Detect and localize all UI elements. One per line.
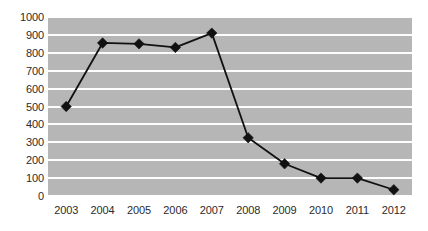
x-tick-label: 2007 bbox=[200, 205, 224, 216]
x-tick-label: 2012 bbox=[382, 205, 406, 216]
x-axis: 2003200420052006200720082009201020112012 bbox=[0, 0, 428, 231]
x-tick-label: 2003 bbox=[54, 205, 78, 216]
x-tick-label: 2008 bbox=[236, 205, 260, 216]
x-tick-label: 2005 bbox=[127, 205, 151, 216]
line-chart: 01002003004005006007008009001000 2003200… bbox=[0, 0, 428, 231]
x-tick-label: 2011 bbox=[346, 205, 369, 216]
x-tick-label: 2010 bbox=[309, 205, 333, 216]
x-tick-label: 2009 bbox=[273, 205, 297, 216]
x-tick-label: 2006 bbox=[163, 205, 187, 216]
x-tick-label: 2004 bbox=[91, 205, 115, 216]
